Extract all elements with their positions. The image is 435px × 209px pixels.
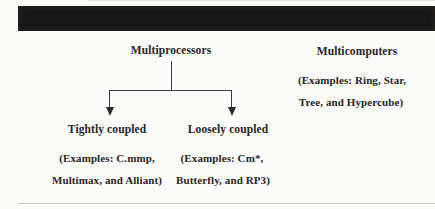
arrow-down-icon: [106, 107, 114, 116]
tree-left-drop-line: [109, 90, 110, 108]
tree-right-drop-line: [231, 90, 232, 108]
page-scan-edge: [88, 0, 435, 1]
node-tightly-coupled: Tightly coupled: [42, 123, 172, 136]
loosely-coupled-examples-line-1: (Examples: Cm*,: [152, 152, 292, 165]
multicomputers-examples-line-1: (Examples: Ring, Star,: [282, 74, 422, 87]
tree-branch-line: [109, 90, 232, 91]
scanned-figure-page: Multiprocessors Tightly coupled (Example…: [0, 0, 435, 209]
multicomputers-examples-line-2: Tree, and Hypercube): [281, 96, 421, 109]
node-multiprocessors: Multiprocessors: [106, 44, 236, 57]
loosely-coupled-examples-line-2: Butterfly, and RP3): [153, 174, 293, 187]
bottom-rule: [18, 203, 435, 204]
tree-stem-line: [171, 61, 172, 91]
node-multicomputers: Multicomputers: [292, 45, 422, 58]
black-header-bar: [18, 6, 435, 31]
node-loosely-coupled: Loosely coupled: [163, 123, 293, 136]
arrow-down-icon: [228, 107, 236, 116]
